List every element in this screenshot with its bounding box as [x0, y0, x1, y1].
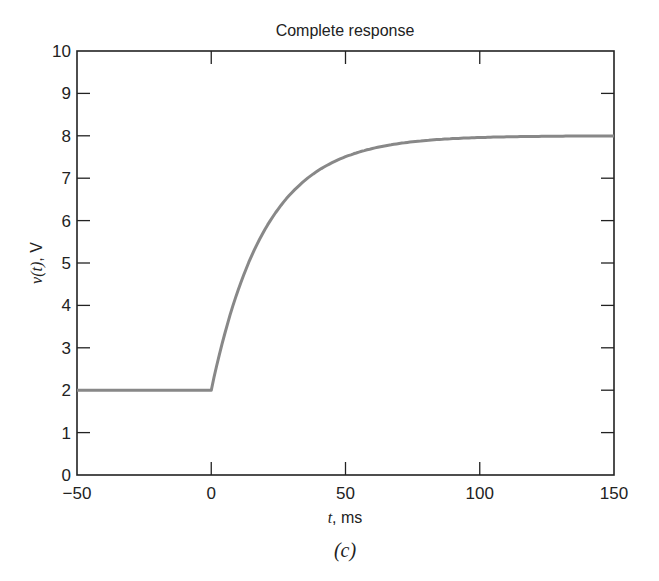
response-curve — [77, 136, 614, 390]
x-axis-label: t, ms — [328, 509, 363, 526]
y-tick-label: 2 — [62, 381, 71, 400]
plot-border — [77, 51, 614, 475]
y-axis-variable: v(t) — [28, 262, 46, 284]
y-tick-label: 6 — [62, 212, 71, 231]
y-tick-label: 3 — [62, 339, 71, 358]
chart-title: Complete response — [276, 22, 415, 39]
x-tick-label: −50 — [63, 484, 92, 503]
axis-tick-labels: −50050100150012345678910 — [52, 42, 628, 503]
chart: −50050100150012345678910 Complete respon… — [0, 0, 659, 581]
x-axis-unit: , ms — [332, 509, 362, 526]
figure-caption: (c) — [334, 539, 357, 562]
y-axis-unit: , V — [28, 242, 45, 262]
y-tick-label: 4 — [62, 296, 71, 315]
plot-frame — [77, 51, 614, 475]
y-tick-label: 9 — [62, 84, 71, 103]
x-tick-label: 150 — [600, 484, 628, 503]
x-tick-label: 100 — [466, 484, 494, 503]
y-tick-label: 8 — [62, 127, 71, 146]
y-axis-label: v(t), V — [28, 242, 46, 284]
y-tick-label: 1 — [62, 424, 71, 443]
y-tick-label: 7 — [62, 169, 71, 188]
y-tick-label: 0 — [62, 466, 71, 485]
axis-ticks — [77, 51, 614, 475]
x-tick-label: 0 — [207, 484, 216, 503]
x-tick-label: 50 — [336, 484, 355, 503]
y-tick-label: 5 — [62, 254, 71, 273]
y-tick-label: 10 — [52, 42, 71, 61]
